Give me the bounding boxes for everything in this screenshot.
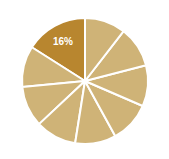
- pie-slice-label: 16%: [53, 36, 73, 47]
- pie-slice-group: [22, 18, 148, 144]
- pie-chart-svg: 16%: [0, 0, 169, 159]
- pie-label-group: 16%: [53, 36, 73, 47]
- pie-chart-container: 16%: [0, 0, 169, 159]
